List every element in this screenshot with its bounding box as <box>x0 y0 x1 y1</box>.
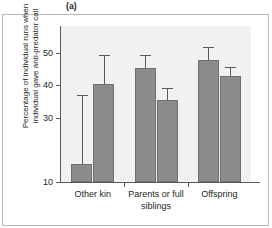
bar <box>198 60 219 182</box>
x-axis-line <box>60 182 260 183</box>
y-tick-label: 10 <box>43 177 53 187</box>
x-tick-mark <box>188 182 189 187</box>
y-tick-mark <box>56 118 61 119</box>
bar <box>93 84 114 182</box>
error-bar-cap <box>225 67 236 68</box>
bar <box>220 76 241 182</box>
bar <box>157 100 178 182</box>
error-bar-line <box>230 67 231 76</box>
y-axis-title-line2: individual gave anti-predator call <box>31 4 42 129</box>
y-tick-mark <box>56 85 61 86</box>
error-bar-line <box>145 55 146 68</box>
x-group-label: Offspring <box>174 189 264 201</box>
figure-panel-a: (a) Percentage of individual runs when i… <box>0 0 272 228</box>
error-bar-line <box>82 95 83 164</box>
y-tick-mark <box>56 182 61 183</box>
panel-label: (a) <box>66 1 77 11</box>
y-tick-mark <box>56 53 61 54</box>
y-axis-line <box>60 26 61 183</box>
x-tick-mark <box>124 182 125 187</box>
y-axis-title-line1: Percentage of individual runs when <box>21 4 32 129</box>
error-bar-line <box>167 88 168 100</box>
error-bar-cap <box>162 88 173 89</box>
error-bar-cap <box>77 95 88 96</box>
error-bar-cap <box>140 55 151 56</box>
error-bar-line <box>208 47 209 60</box>
x-group-label-line2: siblings <box>111 201 201 213</box>
bar <box>135 68 156 182</box>
error-bar-cap <box>99 55 110 56</box>
error-bar-line <box>104 55 105 85</box>
y-tick-label: 50 <box>43 48 53 58</box>
y-axis-title: Percentage of individual runs when indiv… <box>17 0 45 146</box>
y-tick-label: 40 <box>43 80 53 90</box>
y-tick-label: 30 <box>43 113 53 123</box>
bar <box>71 164 92 182</box>
error-bar-cap <box>203 47 214 48</box>
x-group-label-line1: Offspring <box>174 189 264 201</box>
